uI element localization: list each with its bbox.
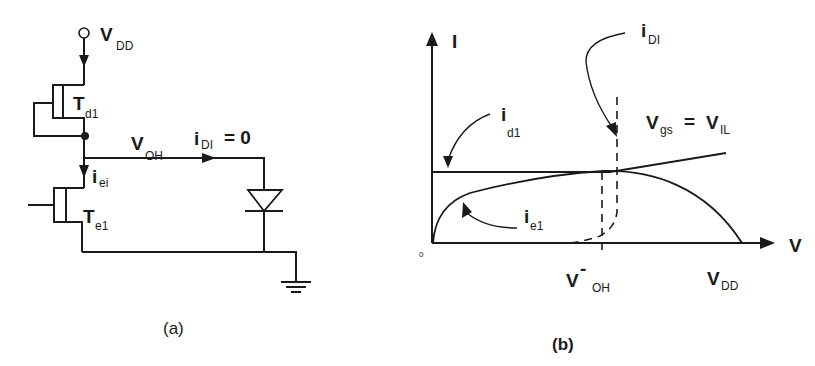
vdd-axis-label: V (707, 268, 720, 289)
caption-b: (b) (552, 335, 574, 354)
idi-zero-label: i (194, 128, 199, 149)
idi-pointer-arrow (586, 33, 625, 127)
svg-text:IL: IL (720, 123, 730, 137)
x-axis-label: V (789, 235, 802, 256)
arrowhead-icon (606, 122, 617, 137)
svg-text:ei: ei (99, 176, 108, 190)
transistor-te1-icon (28, 188, 84, 252)
voh-label: V (131, 133, 144, 154)
iei-label: i (92, 166, 97, 187)
svg-text:V: V (566, 270, 579, 291)
figure: V DD T d1 V OH i DI = 0 i ei T e1 (a) (0, 0, 815, 366)
svg-text:V: V (706, 112, 719, 133)
diagram-canvas: V DD T d1 V OH i DI = 0 i ei T e1 (a) (0, 0, 815, 366)
svg-text:=: = (684, 111, 695, 132)
arrowhead-icon (443, 156, 453, 168)
current-arrow-icon (202, 153, 216, 163)
svg-text:= 0: = 0 (224, 127, 251, 148)
te1-label: T (83, 206, 95, 227)
y-axis-label: I (452, 31, 457, 52)
id1-pointer-arrow (448, 114, 490, 160)
svg-text:DD: DD (116, 39, 134, 53)
circuit-a-labels: V DD T d1 V OH i DI = 0 i ei T e1 (a) (73, 24, 251, 338)
idi-label: i (641, 20, 646, 41)
svg-text:-: - (580, 258, 586, 279)
plot-b-labels: I V 0 i d1 i e1 i DI V gs = V IL V - OH … (419, 20, 802, 354)
current-arrow-icon (79, 165, 89, 178)
y-axis-arrow-icon (426, 32, 438, 46)
diode-icon (245, 190, 283, 252)
ie1-curve (433, 171, 742, 243)
plot-b (426, 32, 775, 252)
current-arrow-icon (79, 55, 89, 67)
td1-label: T (73, 93, 85, 114)
svg-text:e1: e1 (530, 219, 544, 233)
svg-text:OH: OH (592, 281, 610, 295)
svg-text:DD: DD (721, 279, 739, 293)
id1-label: i (501, 104, 506, 125)
circuit-a (28, 28, 311, 292)
id1-curve (432, 153, 726, 172)
svg-text:OH: OH (145, 149, 163, 163)
vgs-equals-vil-label: V gs = V IL (646, 111, 730, 137)
idi-dashed-curve (570, 97, 617, 243)
svg-text:d1: d1 (507, 126, 521, 140)
vdd-terminal-icon (79, 28, 89, 38)
vdd-label: V (100, 24, 113, 45)
svg-text:d1: d1 (85, 107, 99, 121)
x-axis-arrow-icon (760, 237, 775, 249)
voh-minus-label: V - OH (566, 258, 610, 295)
svg-text:DI: DI (648, 33, 660, 47)
svg-text:V: V (646, 112, 659, 133)
ie1-label: i (524, 206, 529, 227)
svg-text:e1: e1 (95, 219, 109, 233)
ground-icon (281, 282, 311, 292)
svg-text:DI: DI (201, 138, 213, 152)
origin-label: 0 (419, 250, 424, 259)
svg-text:gs: gs (660, 123, 673, 137)
caption-a: (a) (163, 319, 184, 338)
ie1-pointer-arrow (467, 213, 517, 228)
